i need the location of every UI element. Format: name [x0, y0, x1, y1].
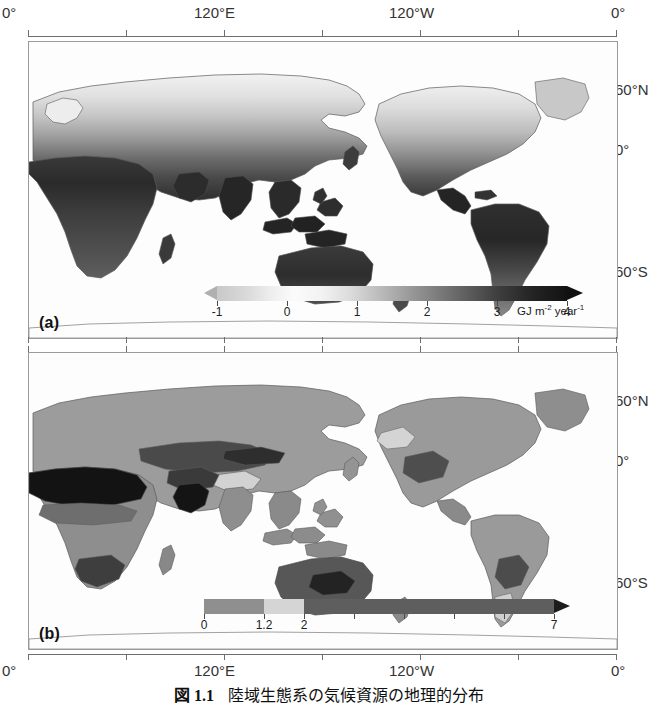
- colorbar-b-class-2: [304, 599, 554, 614]
- colorbar-b-class-1: [264, 599, 304, 614]
- colorbar-a-units: GJ m-2 year-1: [517, 303, 584, 317]
- colorbar-b-class-0: [204, 599, 264, 614]
- lat-label-b-60s: 60°S: [615, 574, 648, 591]
- colorbar-a-tick-label-2: 1: [354, 305, 361, 319]
- colorbar-a-units-sup2: -1: [577, 303, 584, 312]
- lon-label-top-0: 0°: [2, 4, 16, 21]
- map-panel-a: (a) -1 0 1 2 3 4 GJ m-2 year-1: [28, 41, 618, 339]
- colorbar-a: -1 0 1 2 3 4 GJ m-2 year-1: [204, 286, 594, 320]
- lat-label-b-60n: 60°N: [615, 392, 649, 409]
- axis-line-top: [28, 36, 617, 37]
- longitude-axis-bottom: 0° 120°E 120°W 0°: [0, 662, 658, 682]
- colorbar-b-tick-label-0: 0: [201, 618, 208, 632]
- colorbar-a-units-main: GJ m: [517, 305, 544, 317]
- colorbar-b: 0 1.2 2 7: [204, 599, 594, 633]
- colorbar-b-tick-label-2: 2: [301, 618, 308, 632]
- map-panel-b: (b) 0 1.2 2 7: [28, 352, 618, 650]
- colorbar-a-tick-label-1: 0: [284, 305, 291, 319]
- colorbar-a-units-mid: year: [552, 305, 578, 317]
- colorbar-a-gradient: [217, 286, 567, 301]
- longitude-axis-top: 0° 120°E 120°W 0°: [0, 4, 658, 24]
- colorbar-a-units-sup1: -2: [544, 303, 551, 312]
- lon-label-top-1: 120°E: [194, 4, 235, 21]
- lon-label-bottom-3: 0°: [611, 662, 625, 679]
- lon-label-top-2: 120°W: [389, 4, 434, 21]
- panel-tag-a: (a): [39, 314, 59, 332]
- caption-number: 図 1.1: [174, 687, 214, 704]
- figure-root: 0° 120°E 120°W 0° 60°N 0° 60°S: [0, 0, 658, 704]
- colorbar-a-tick-label-3: 2: [424, 305, 431, 319]
- lon-label-bottom-2: 120°W: [389, 662, 434, 679]
- colorbar-b-tick-label-1: 1.2: [256, 618, 273, 632]
- lon-label-bottom-0: 0°: [2, 662, 16, 679]
- lat-label-a-60s: 60°S: [615, 263, 648, 280]
- lon-label-bottom-1: 120°E: [194, 662, 235, 679]
- lat-label-a-60n: 60°N: [615, 81, 649, 98]
- lon-label-top-3: 0°: [611, 4, 625, 21]
- colorbar-a-left-arrow: [204, 286, 217, 300]
- panel-tag-b: (b): [39, 625, 60, 643]
- figure-caption: 図 1.1陸域生態系の気候資源の地理的分布: [0, 682, 658, 704]
- colorbar-b-right-arrow: [554, 599, 570, 613]
- colorbar-a-tick-label-4: 3: [494, 305, 501, 319]
- caption-text: 陸域生態系の気候資源の地理的分布: [228, 686, 484, 704]
- colorbar-b-tick-label-3: 7: [551, 618, 558, 632]
- colorbar-a-tick-label-0: -1: [212, 305, 223, 319]
- colorbar-a-right-arrow: [567, 286, 583, 300]
